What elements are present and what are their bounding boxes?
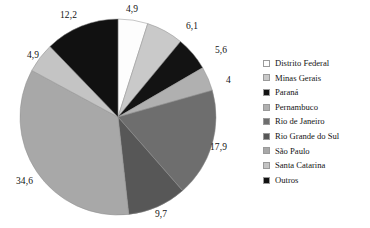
legend-item[interactable]: Paraná bbox=[263, 85, 368, 100]
legend-swatch-icon bbox=[263, 60, 270, 67]
legend-item-label: Rio de Janeiro bbox=[275, 117, 325, 126]
legend-item-label: Santa Catarina bbox=[275, 161, 325, 170]
chart-legend: Distrito FederalMinas GeraisParanáPernam… bbox=[263, 56, 368, 187]
pie-data-label: 4 bbox=[226, 75, 231, 85]
legend-swatch-icon bbox=[263, 104, 270, 111]
legend-item-label: Rio Grande do Sul bbox=[275, 132, 339, 141]
legend-item-label: Outros bbox=[275, 176, 298, 185]
legend-swatch-icon bbox=[263, 147, 270, 154]
legend-item[interactable]: Minas Gerais bbox=[263, 71, 368, 86]
legend-swatch-icon bbox=[263, 177, 270, 184]
legend-swatch-icon bbox=[263, 74, 270, 81]
legend-item-label: Minas Gerais bbox=[275, 74, 321, 83]
legend-item-label: Pernambuco bbox=[275, 103, 318, 112]
pie-data-label: 17,9 bbox=[210, 142, 227, 152]
legend-item[interactable]: Rio Grande do Sul bbox=[263, 129, 368, 144]
legend-swatch-icon bbox=[263, 162, 270, 169]
pie-data-label: 6,1 bbox=[186, 21, 198, 31]
legend-item[interactable]: Pernambuco bbox=[263, 100, 368, 115]
pie-data-label: 4,9 bbox=[27, 50, 39, 60]
pie-data-label: 12,2 bbox=[60, 10, 77, 20]
pie-data-label: 5,6 bbox=[215, 45, 227, 55]
pie-chart-figure: 4,96,15,6417,99,734,64,912,2 Distrito Fe… bbox=[0, 0, 370, 228]
legend-swatch-icon bbox=[263, 118, 270, 125]
pie-slice-group bbox=[20, 19, 216, 215]
pie-plot-area: 4,96,15,6417,99,734,64,912,2 bbox=[0, 0, 240, 228]
legend-swatch-icon bbox=[263, 133, 270, 140]
legend-item[interactable]: Santa Catarina bbox=[263, 158, 368, 173]
legend-item[interactable]: São Paulo bbox=[263, 144, 368, 159]
legend-item-label: Paraná bbox=[275, 88, 298, 97]
pie-data-label: 9,7 bbox=[155, 209, 167, 219]
legend-item-label: Distrito Federal bbox=[275, 59, 329, 68]
legend-item[interactable]: Rio de Janeiro bbox=[263, 114, 368, 129]
legend-swatch-icon bbox=[263, 89, 270, 96]
pie-data-label: 34,6 bbox=[16, 176, 33, 186]
pie-svg bbox=[0, 0, 240, 228]
legend-item[interactable]: Outros bbox=[263, 173, 368, 188]
legend-item[interactable]: Distrito Federal bbox=[263, 56, 368, 71]
legend-item-label: São Paulo bbox=[275, 147, 310, 156]
pie-data-label: 4,9 bbox=[126, 4, 138, 14]
